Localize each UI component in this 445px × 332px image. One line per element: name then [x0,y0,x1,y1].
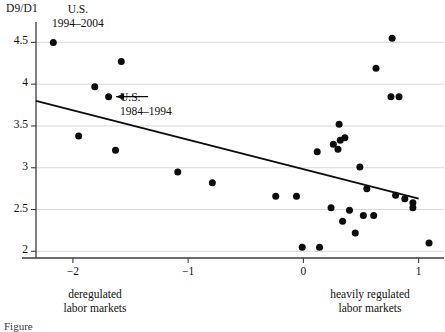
y-tick-label: 3.5 [14,118,28,130]
data-point [392,192,399,199]
y-tick-label: 4.5 [14,34,28,46]
data-point [396,93,403,100]
x-tick-label: −2 [64,265,82,277]
y-tick-label: 4 [22,76,28,88]
gridlines [36,42,444,251]
data-point [272,193,279,200]
data-point [339,218,346,225]
data-point [328,204,335,211]
trend-line [36,101,419,199]
data-point [352,229,359,236]
data-point [356,163,363,170]
x-tick-label: −1 [179,265,197,277]
y-tick-label: 2 [22,243,28,255]
data-point [363,185,370,192]
data-point [50,39,57,46]
data-point [105,93,112,100]
data-point [401,195,408,202]
annotation-arrow [116,93,148,100]
x-tick-label: 1 [410,265,428,277]
data-point [299,244,306,251]
data-point [209,179,216,186]
data-point [316,244,323,251]
x-tick-label: 0 [294,265,312,277]
data-point [336,121,343,128]
data-point [360,212,367,219]
data-point [409,204,416,211]
data-point [370,212,377,219]
arrow-head [116,93,124,100]
data-point [118,58,125,65]
data-point [75,132,82,139]
data-point [341,134,348,141]
tick-marks [31,42,419,263]
data-point [426,239,433,246]
data-point [334,146,341,153]
data-point [389,35,396,42]
data-point [174,168,181,175]
data-point [112,147,119,154]
data-point [314,148,321,155]
regression-line [36,101,419,199]
axes [22,22,444,258]
data-point [293,193,300,200]
data-points [50,35,433,251]
data-point [387,93,394,100]
data-point [373,65,380,72]
data-point [91,83,98,90]
y-tick-label: 2.5 [14,202,28,214]
y-tick-label: 3 [22,160,28,172]
data-point [346,207,353,214]
